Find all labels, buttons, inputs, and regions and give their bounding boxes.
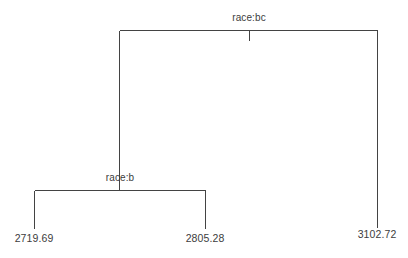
leaf-label-left: 2719.69	[15, 232, 54, 244]
node-label-left-split: race:b	[106, 172, 134, 183]
node-label-root-split: race:bc	[232, 12, 266, 23]
tree-branch-lines	[0, 0, 408, 258]
tree-diagram-figure: race:bc race:b 2719.69 2805.28 3102.72	[0, 0, 408, 258]
leaf-label-middle: 2805.28	[186, 232, 225, 244]
leaf-label-right: 3102.72	[358, 228, 397, 240]
